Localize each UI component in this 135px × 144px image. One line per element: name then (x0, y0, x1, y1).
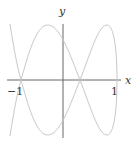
y-axis-label: y (59, 6, 65, 17)
x-axis-label: x (125, 75, 131, 86)
plot-area (0, 0, 135, 144)
x-tick-1: 1 (111, 86, 118, 97)
x-tick-neg1: −1 (7, 86, 23, 97)
